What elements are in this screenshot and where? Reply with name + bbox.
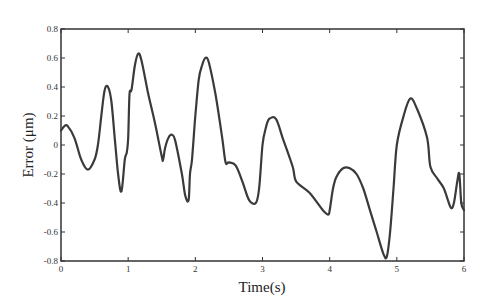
x-axis-label: Time(s) — [239, 279, 286, 296]
x-tick-label: 2 — [193, 264, 198, 274]
x-tick-label: 5 — [395, 264, 400, 274]
x-tick-label: 1 — [126, 264, 131, 274]
y-tick-label: -0.2 — [44, 169, 58, 179]
x-tick-label: 0 — [59, 264, 64, 274]
y-tick-label: 0.8 — [47, 24, 59, 34]
y-tick-label: 0.2 — [47, 111, 58, 121]
error-time-chart: -0.8-0.6-0.4-0.200.20.40.60.8 0123456 Ti… — [0, 0, 485, 302]
y-tick-label: 0 — [54, 140, 59, 150]
x-tick-label: 6 — [462, 264, 467, 274]
y-tick-label: 0.6 — [47, 53, 59, 63]
y-tick-label: 0.4 — [47, 82, 59, 92]
y-tick-label: -0.4 — [44, 198, 59, 208]
y-axis-label: Error (μm) — [20, 112, 37, 177]
x-tick-label: 4 — [327, 264, 332, 274]
y-tick-label: -0.8 — [44, 256, 59, 266]
y-tick-label: -0.6 — [44, 227, 59, 237]
x-tick-label: 3 — [260, 264, 265, 274]
